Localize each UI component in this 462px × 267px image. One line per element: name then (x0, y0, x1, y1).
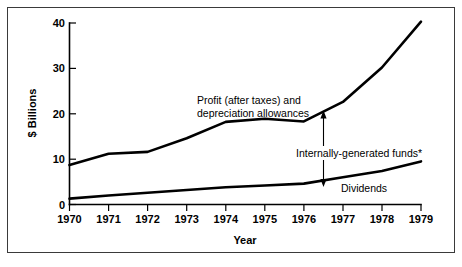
profit-series-label-line-2: depreciation allowances (197, 107, 309, 119)
y-axis-title: $ Billions (26, 89, 38, 138)
y-axis: 40 30 20 10 0 $ Billions (26, 17, 76, 211)
line-chart: 40 30 20 10 0 $ Billions 1970 1971 (8, 8, 456, 254)
y-tick-label-40: 40 (53, 17, 65, 29)
x-tick-label-1979: 1979 (409, 213, 433, 225)
profit-series-label-line-1: Profit (after taxes) and (197, 94, 301, 106)
x-tick-label-1975: 1975 (253, 213, 277, 225)
y-tick-label-30: 30 (53, 62, 65, 74)
arrow-head-down (320, 179, 326, 187)
x-axis: 1970 1971 1972 1973 1974 1975 1976 1977 … (57, 205, 433, 247)
y-tick-label-0: 0 (59, 199, 65, 211)
x-tick-label-1971: 1971 (96, 213, 120, 225)
dividends-series-label: Dividends (341, 182, 387, 194)
y-tick-label-10: 10 (53, 153, 65, 165)
y-tick-label-20: 20 (53, 108, 65, 120)
chart-figure-frame: 40 30 20 10 0 $ Billions 1970 1971 (7, 7, 455, 253)
x-tick-label-1977: 1977 (331, 213, 355, 225)
x-tick-label-1974: 1974 (214, 213, 239, 225)
x-axis-title: Year (233, 234, 257, 246)
x-tick-label-1978: 1978 (370, 213, 394, 225)
internally-generated-funds-label: Internally-generated funds* (296, 147, 422, 159)
x-tick-label-1972: 1972 (135, 213, 159, 225)
x-tick-label-1976: 1976 (292, 213, 316, 225)
x-tick-label-1973: 1973 (174, 213, 198, 225)
x-tick-label-1970: 1970 (57, 213, 81, 225)
